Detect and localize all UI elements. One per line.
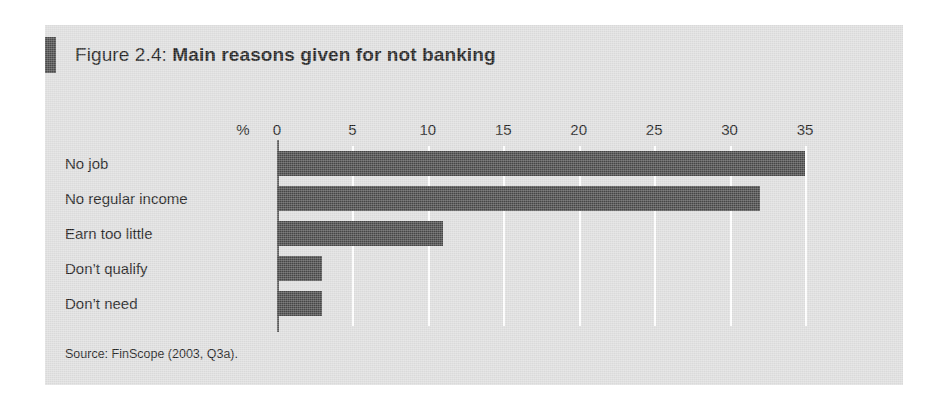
y-axis-category-labels: No jobNo regular incomeEarn too littleDo… xyxy=(65,146,265,326)
source-note: Source: FinScope (2003, Q3a). xyxy=(65,347,238,361)
x-axis-unit-label: % xyxy=(236,121,249,138)
x-axis-tick-label: 15 xyxy=(495,121,512,138)
chart-bar-row xyxy=(277,286,805,321)
y-axis-category-label: Don’t qualify xyxy=(65,251,148,286)
x-axis-tick-label: 35 xyxy=(797,121,814,138)
y-axis-category-label: Earn too little xyxy=(65,216,153,251)
chart-bar[interactable] xyxy=(277,221,443,246)
y-axis-category-label: Don’t need xyxy=(65,286,138,321)
chart-bar[interactable] xyxy=(277,256,322,281)
x-axis-tick-label: 30 xyxy=(721,121,738,138)
x-axis-tick-label: 25 xyxy=(646,121,663,138)
x-axis-tick-label: 10 xyxy=(420,121,437,138)
chart-plot-area xyxy=(277,146,805,326)
y-axis-category-label: No job xyxy=(65,146,108,181)
chart-bar-row xyxy=(277,181,805,216)
chart-plot-wrapper: % 05101520253035 No jobNo regular income… xyxy=(45,25,903,385)
x-axis-tick-label: 20 xyxy=(570,121,587,138)
chart-bar-row xyxy=(277,251,805,286)
figure-panel: Figure 2.4: Main reasons given for not b… xyxy=(45,25,903,385)
chart-bar[interactable] xyxy=(277,151,805,176)
chart-bar-row xyxy=(277,216,805,251)
chart-bar[interactable] xyxy=(277,291,322,316)
chart-gridline xyxy=(805,146,807,326)
chart-bar[interactable] xyxy=(277,186,760,211)
x-axis-tick-label: 5 xyxy=(348,121,356,138)
x-axis-tick-label: 0 xyxy=(273,121,281,138)
x-axis-tick-labels: % 05101520253035 xyxy=(45,121,903,139)
chart-bar-row xyxy=(277,146,805,181)
y-axis-category-label: No regular income xyxy=(65,181,188,216)
